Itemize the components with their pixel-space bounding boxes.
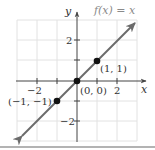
y-tick-label-2: 2 — [66, 35, 72, 46]
y-tick-label-neg2: −2 — [60, 116, 75, 127]
function-graph: f(x) = x y x −2 2 2 −2 (1, 1) (0, 0) (−1… — [0, 0, 155, 150]
x-tick-label-2: 2 — [114, 85, 120, 96]
point-origin — [74, 78, 81, 85]
point-label-origin: (0, 0) — [80, 85, 107, 96]
y-axis-label: y — [64, 5, 72, 18]
chart-title: f(x) = x — [93, 4, 136, 17]
point-label-1-1: (1, 1) — [100, 63, 127, 74]
point-neg1-neg1 — [54, 98, 61, 105]
x-tick-label-neg2: −2 — [27, 85, 42, 96]
point-label-neg1-neg1: (−1, −1) — [8, 96, 52, 107]
x-axis-label: x — [141, 83, 148, 96]
